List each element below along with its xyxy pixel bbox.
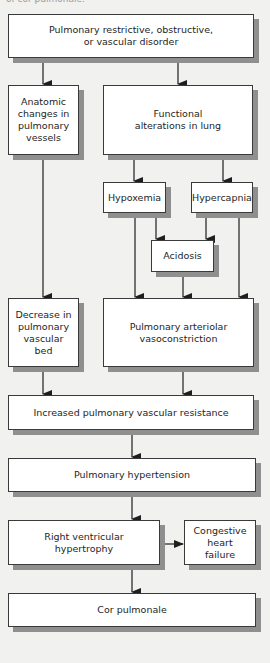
node-cor-pulmonale: Cor pulmonale [8, 593, 256, 627]
node-right-ventricular-hypertrophy: Right ventricular hypertrophy [8, 520, 160, 565]
node-hypercapnia: Hypercapnia [191, 182, 253, 213]
node-increased-pvr: Increased pulmonary vascular resistance [8, 395, 254, 430]
node-pulmonary-hypertension: Pulmonary hypertension [8, 458, 256, 492]
node-hypoxemia: Hypoxemia [103, 182, 166, 213]
node-decrease-vascular-bed: Decrease in pulmonary vascular bed [8, 298, 79, 367]
node-acidosis: Acidosis [151, 240, 214, 272]
node-anatomic-changes: Anatomic changes in pulmonary vessels [8, 85, 79, 155]
node-pulmonary-disorder: Pulmonary restrictive, obstructive, or v… [8, 14, 254, 58]
node-congestive-heart-failure: Congestive heart failure [184, 520, 256, 565]
node-arteriolar-vasoconstriction: Pulmonary arteriolar vasoconstriction [103, 298, 254, 367]
node-functional-alterations: Functional alterations in lung [103, 85, 253, 155]
